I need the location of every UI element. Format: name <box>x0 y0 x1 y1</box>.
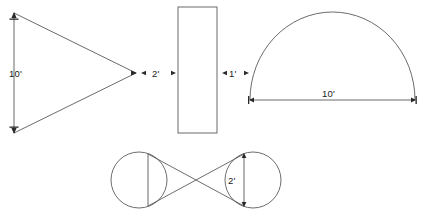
triangle-upper-side <box>14 13 136 73</box>
dimension-gap-triangle-to-rectangle: 2' <box>141 68 176 79</box>
bowtie-figure: 2' <box>111 152 281 208</box>
bowtie-chord-label: 2' <box>228 175 236 186</box>
dimension-gap-rectangle-to-semicircle: 1' <box>222 68 249 79</box>
rectangle-figure <box>178 7 217 133</box>
semicircle-arrow-right <box>411 96 417 104</box>
geometry-figures-canvas: 10' 2' 1' 10' <box>0 0 425 217</box>
triangle-height-label: 10' <box>9 68 22 79</box>
semicircle-diameter-label: 10' <box>322 88 335 99</box>
triangle-vertex-arrow-top <box>10 12 19 20</box>
gap-right-arrow-start <box>222 71 227 75</box>
triangle-lower-side <box>14 73 136 133</box>
triangle-vertex-arrow-apex <box>131 70 137 75</box>
semicircle-arrow-left <box>248 96 254 104</box>
bowtie-left-circle <box>111 152 167 208</box>
rectangle-outline <box>178 7 217 133</box>
semicircle-figure: 10' <box>248 12 417 104</box>
gap-right-label: 1' <box>229 68 237 79</box>
semicircle-arc <box>250 12 415 100</box>
gap-left-arrow-start <box>141 71 146 75</box>
gap-left-arrow-end <box>171 71 176 75</box>
gap-right-arrow-end <box>244 71 249 75</box>
triangle-figure: 10' <box>9 12 137 134</box>
triangle-vertex-arrow-bottom <box>10 127 19 135</box>
gap-left-label: 2' <box>152 68 160 79</box>
